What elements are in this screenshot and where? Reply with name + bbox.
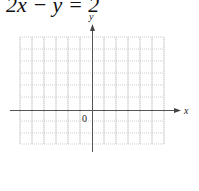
origin-label: 0 bbox=[82, 113, 87, 124]
y-axis-arrow-icon bbox=[90, 24, 95, 31]
x-axis-arrow-icon bbox=[174, 108, 181, 113]
y-axis-label: y bbox=[88, 11, 94, 22]
x-axis-label: x bbox=[183, 105, 189, 116]
coordinate-grid: y x 0 bbox=[0, 0, 199, 191]
